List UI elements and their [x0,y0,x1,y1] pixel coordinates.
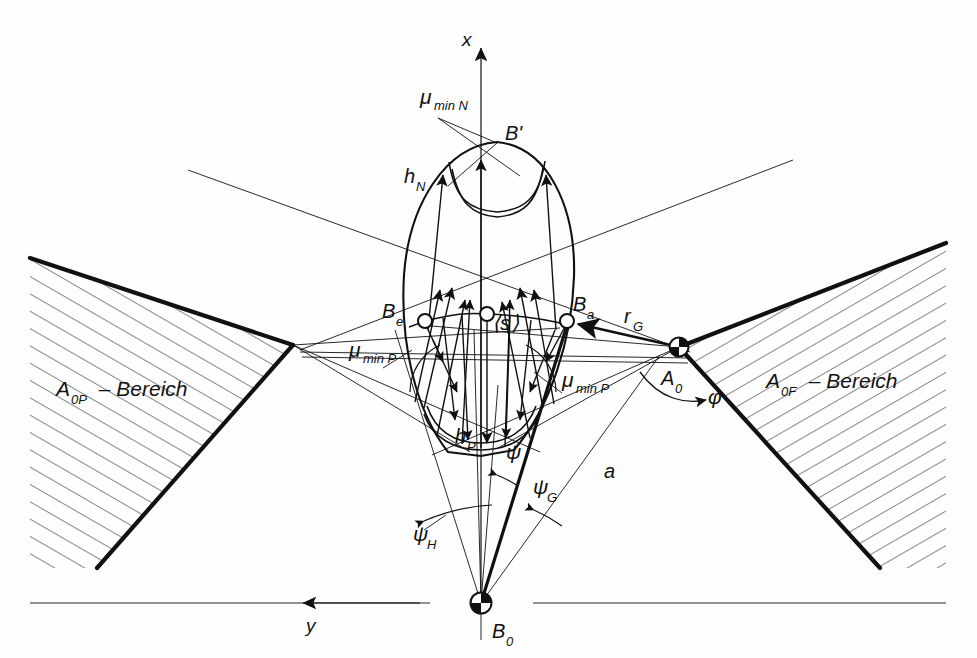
label-h-p-sub: P [467,439,476,454]
region-a0p-bereich [30,258,293,568]
label-b-prime-text: B' [505,122,523,144]
diagram-canvas: x y [0,0,977,658]
upward-vector-field [415,160,556,448]
label-b-e-sub: e [396,314,403,329]
label-b-0: B 0 [492,620,514,649]
marker-a-0 [670,338,689,357]
x-axis: x [461,29,481,603]
label-phi-text: φ [708,385,722,408]
label-psi: ψ [506,440,521,463]
y-axis-label: y [304,615,317,636]
x-axis-label: x [461,29,473,50]
label-a-0: A 0 [660,367,683,396]
label-s-mean: ⟨s⟩ [492,311,519,334]
label-psi-h-main: ψ [413,522,428,545]
label-region-left-main: A [54,377,70,400]
label-mu-min-n-main: μ [419,85,432,108]
label-b-0-sub: 0 [506,634,514,649]
label-psi-g-main: ψ [533,475,548,498]
label-phi: φ [708,385,722,408]
downward-vector-field [425,315,567,443]
label-b-0-main: B [492,620,505,642]
label-h-p-main: h [455,425,466,447]
label-psi-h: ψ H [413,522,437,552]
label-b-a-main: B [573,293,586,315]
label-h-n-sub: N [416,179,426,194]
label-b-prime: B' [505,122,523,144]
pitch-line [481,322,568,603]
label-mu-min-n-sub: min N [434,98,469,113]
label-a-distance: a [604,460,615,482]
label-psi-g-sub: G [547,490,557,505]
label-b-a: B a [573,293,594,322]
label-psi-text: ψ [506,440,521,463]
label-psi-h-sub: H [427,537,437,552]
label-mu-min-p-left-main: μ [348,338,361,361]
label-r-g-sub: G [633,319,643,334]
label-mu-min-p-left: μ min P [348,338,397,366]
label-mu-min-p-left-sub: min P [363,351,397,366]
label-h-n-main: h [404,165,415,187]
label-mu-min-p-right: μ min P [561,368,610,396]
label-mu-min-p-right-sub: min P [576,381,610,396]
label-mu-min-p-right-main: μ [561,368,574,391]
label-a-0-sub: 0 [675,381,683,396]
label-b-a-sub: a [587,307,594,322]
label-b-e-main: B [382,300,395,322]
label-mu-min-n: μ min N [419,85,469,113]
psi-arc [497,475,518,486]
marker-b-e [418,314,432,328]
diagram-svg: x y [0,0,977,658]
label-region-right-sub: 0F [781,384,797,399]
label-a-text: a [604,460,615,482]
label-region-left-suffix: – Bereich [93,377,188,400]
label-region-right-main: A [764,369,780,392]
label-psi-g: ψ G [533,475,557,505]
label-region-left-sub: 0P [71,392,87,407]
label-b-e: B e [382,300,403,329]
label-r-g: r G [624,305,643,334]
marker-b-0 [471,593,492,614]
r-g-arrow [578,324,679,347]
y-axis: y [303,603,420,636]
label-s-mean-text: ⟨s⟩ [492,311,519,334]
point-markers [418,307,689,614]
marker-b-a [560,314,574,328]
contact-field-outline [403,142,574,456]
upper-cap-arcs [449,161,545,217]
label-region-right-suffix: – Bereich [803,369,898,392]
psi-h-arc [424,505,492,521]
label-h-n: h N [404,165,426,194]
label-a-0-main: A [660,367,674,389]
label-r-g-main: r [624,305,632,327]
